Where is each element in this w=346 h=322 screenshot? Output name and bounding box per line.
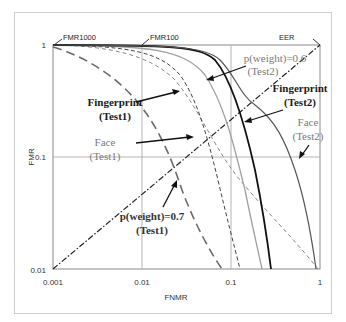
annotation-face-test1-line1: Face: [95, 136, 116, 148]
annotation-fingerprint-test2-line1: Fingerprint: [273, 82, 328, 94]
fmr100-marker: [142, 39, 149, 45]
x-tick-0.001: 0.001: [43, 278, 64, 287]
annotation-face-test2-line2: (Test2): [293, 130, 324, 143]
annotation-fingerprint-test1-line1: Fingerprint: [88, 96, 143, 108]
x-axis-label: FNMR: [164, 293, 187, 302]
annotation-pweight07-test1-line2: (Test1): [136, 224, 168, 237]
annotation-face-test2-line1: Face: [298, 116, 319, 128]
y-tick-0.01: 0.01: [30, 266, 46, 275]
arrow-pweight07-test1: [163, 184, 175, 207]
annotation-pweight06-test2-line1: p(weight)=0.6: [244, 52, 307, 65]
y-tick-0.1: 0.1: [35, 153, 47, 162]
arrowhead-icon: [186, 134, 194, 140]
arrow-fingerprint-test2: [248, 110, 283, 121]
x-tick-0.1: 0.1: [225, 278, 237, 287]
annotation-pweight07-test1-line1: p(weight)=0.7: [120, 210, 185, 223]
arrowhead-icon: [172, 89, 180, 95]
det-chart: FMR1000 FMR100 EER 1 0.1 0.01 0.001 0.01…: [0, 0, 346, 322]
annotation-pweight06-test2-line2: (Test2): [248, 65, 279, 78]
eer-label: EER: [279, 33, 295, 42]
annotation-fingerprint-test2-line2: (Test2): [284, 96, 316, 109]
arrow-face-test1: [136, 137, 190, 143]
fmr1000-label: FMR1000: [63, 33, 96, 42]
annotation-face-test1-line2: (Test1): [90, 150, 121, 163]
fmr1000-marker: [54, 39, 62, 45]
eer-marker: [313, 39, 320, 45]
x-tick-1: 1: [318, 278, 323, 287]
x-tick-0.01: 0.01: [134, 278, 150, 287]
fmr100-label: FMR100: [150, 33, 179, 42]
arrowhead-icon: [244, 117, 252, 123]
arrowhead-icon: [171, 180, 177, 188]
arrow-pweight06-test2: [210, 66, 246, 79]
y-axis-label: FMR: [27, 148, 36, 166]
annotation-fingerprint-test1-line2: (Test1): [99, 110, 131, 123]
y-tick-1: 1: [42, 41, 47, 50]
